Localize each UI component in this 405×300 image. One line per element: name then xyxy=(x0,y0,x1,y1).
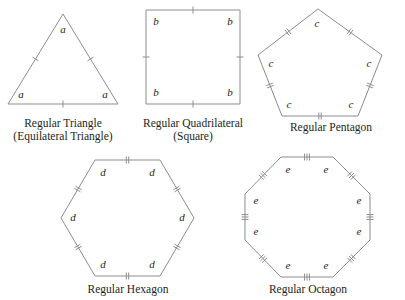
octagon-vertex-label: e xyxy=(357,194,362,206)
triangle-vertex-label: a xyxy=(60,23,66,35)
triangle-tick-group-1 xyxy=(88,57,94,61)
octagon-outline xyxy=(245,157,370,277)
hexagon-vertex-label: d xyxy=(149,166,155,178)
square-vertex-label: b xyxy=(153,15,159,27)
triangle-tick-mark xyxy=(33,57,39,61)
triangle-vertex-label: a xyxy=(102,88,108,100)
hexagon-vertex-label: d xyxy=(179,211,185,223)
hexagon-vertex-label: d xyxy=(70,211,76,223)
caption-square-line1: Regular Quadrilateral xyxy=(143,117,243,130)
triangle-vertex-label: a xyxy=(18,88,24,100)
pentagon-vertex-label: c xyxy=(287,98,292,110)
caption-triangle-line2: (Equilateral Triangle) xyxy=(13,130,112,143)
square-vertex-label: b xyxy=(153,86,159,98)
octagon-vertex-label: e xyxy=(254,225,259,237)
regular-polygons-diagram: aaa bbbb ccccc dddddd eeeeeeee Regular T… xyxy=(0,0,405,300)
square-vertex-label: b xyxy=(227,86,233,98)
octagon-vertex-label: e xyxy=(357,225,362,237)
octagon-vertex-label: e xyxy=(254,194,259,206)
pentagon-outline xyxy=(258,9,382,116)
octagon-vertex-label: e xyxy=(286,259,291,271)
square-outline xyxy=(146,10,240,104)
pentagon-vertex-label: c xyxy=(315,17,320,29)
octagon-vertex-label: e xyxy=(286,163,291,175)
shape-regular-hexagon: dddddd xyxy=(61,157,194,280)
hexagon-vertex-label: d xyxy=(100,166,106,178)
pentagon-vertex-label: c xyxy=(367,57,372,69)
shape-regular-triangle: aaa xyxy=(8,14,118,108)
shape-regular-pentagon: ccccc xyxy=(258,9,382,120)
caption-triangle-line1: Regular Triangle xyxy=(24,117,102,130)
square-vertex-label: b xyxy=(227,15,233,27)
hexagon-vertex-label: d xyxy=(149,258,155,270)
triangle-tick-mark xyxy=(88,57,94,61)
pentagon-vertex-label: c xyxy=(349,98,354,110)
caption-octagon-line1: Regular Octagon xyxy=(269,283,347,296)
shape-regular-octagon: eeeeeeee xyxy=(242,154,374,281)
polygon-figure: aaa bbbb ccccc dddddd eeeeeeee Regular T… xyxy=(0,0,405,300)
caption-square-line2: (Square) xyxy=(173,130,213,143)
octagon-vertex-label: e xyxy=(324,259,329,271)
triangle-tick-group-3 xyxy=(33,57,39,61)
shape-regular-quadrilateral: bbbb xyxy=(143,7,244,108)
pentagon-vertex-label: c xyxy=(269,57,274,69)
octagon-vertex-label: e xyxy=(324,163,329,175)
caption-pentagon-line1: Regular Pentagon xyxy=(290,121,372,134)
caption-hexagon-line1: Regular Hexagon xyxy=(88,283,169,296)
hexagon-outline xyxy=(61,160,194,276)
hexagon-vertex-label: d xyxy=(100,258,106,270)
